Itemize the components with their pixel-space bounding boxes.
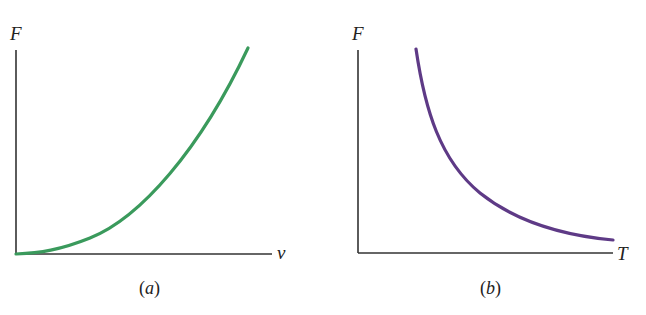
curve-a (16, 48, 248, 254)
y-axis-label-a: F (9, 23, 22, 44)
figure: F v (a) F T (b) (0, 0, 646, 315)
curve-b (416, 49, 613, 240)
caption-a: (a) (139, 278, 160, 299)
x-axis-label-a: v (277, 242, 286, 263)
panel-b: F T (b) (351, 23, 629, 299)
x-axis-label-b: T (617, 243, 629, 264)
panel-a: F v (a) (9, 23, 286, 299)
caption-b: (b) (480, 278, 501, 299)
y-axis-label-b: F (351, 23, 364, 44)
